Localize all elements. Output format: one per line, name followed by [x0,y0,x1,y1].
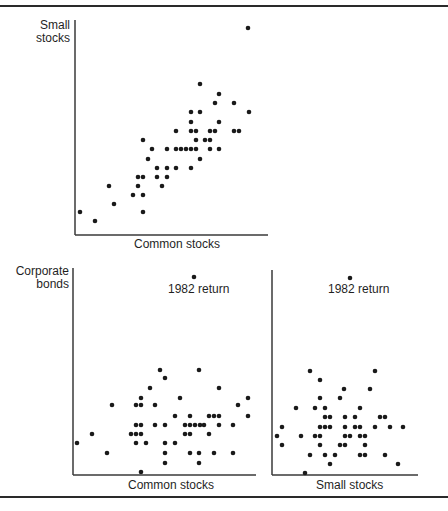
data-point [208,129,213,134]
data-point [189,129,194,134]
data-point [183,432,188,437]
data-point [198,110,203,115]
data-point [163,461,168,466]
data-point [174,166,179,171]
data-point [348,276,353,281]
data-point [153,423,158,428]
data-point [163,451,168,456]
data-point [280,443,285,448]
data-point [134,423,139,428]
data-point [323,453,328,458]
data-point [160,184,165,189]
data-point [353,425,358,430]
data-point [189,120,194,125]
data-point [183,423,188,428]
data-point [323,415,328,420]
data-point [213,101,218,106]
data-point [188,423,193,428]
data-point [198,423,203,428]
data-point [383,453,388,458]
axes-layer [73,20,418,475]
data-point [139,403,144,408]
data-point [318,443,323,448]
data-point [107,184,112,189]
data-point [198,157,203,162]
data-point [342,387,347,392]
data-point [368,387,373,392]
data-point [90,432,95,437]
data-point [231,423,236,428]
data-point [328,415,333,420]
data-point [212,414,217,419]
data-point [373,425,378,430]
data-point [174,129,179,134]
data-point [217,147,222,152]
data-point [163,441,168,446]
data-point [134,403,139,408]
data-point [198,82,203,87]
data-point [373,369,378,374]
data-point [308,453,313,458]
data-point [388,425,393,430]
data-point [78,210,83,215]
data-point [165,175,170,180]
data-point [358,434,363,439]
data-point [155,175,160,180]
data-point [110,403,115,408]
data-point [158,368,163,373]
scatter-figure [0,0,448,511]
data-point [163,423,168,428]
data-point [358,453,363,458]
data-point [396,462,401,467]
data-point [165,147,170,152]
data-point [139,470,144,475]
ylabel-line-2: stocks [10,32,70,45]
data-point [189,147,194,152]
data-point [112,202,117,207]
data-point [139,432,144,437]
data-point [189,110,194,115]
data-point [150,147,155,152]
data-point [323,406,328,411]
data-point [197,451,202,456]
data-point [174,147,179,152]
data-point [348,434,353,439]
data-point [236,403,241,408]
data-point [134,432,139,437]
data-point [131,193,136,198]
data-point [192,275,197,280]
data-point [338,396,343,401]
data-point [280,425,285,430]
data-point [338,443,343,448]
data-point [343,415,348,420]
top-chart-xlabel: Common stocks [134,238,220,251]
data-point [146,157,151,162]
data-point [173,414,178,419]
ylabel-line-2: bonds [0,278,69,291]
bottom-left-annotation: 1982 return [168,283,229,296]
data-point [207,414,212,419]
data-point [383,415,388,420]
data-point [232,129,237,134]
data-point [155,166,160,171]
data-point [136,184,141,189]
data-point [189,166,194,171]
data-point [378,415,383,420]
data-point [203,138,208,143]
data-point [208,147,213,152]
data-point [333,453,338,458]
data-point [202,423,207,428]
data-point [207,432,212,437]
data-point [141,193,146,198]
bottom-right-chart-xlabel: Small stocks [316,479,383,492]
data-point [313,434,318,439]
data-point [193,423,198,428]
data-point [247,110,252,115]
data-point [136,175,141,180]
data-point [217,386,222,391]
data-point [179,147,184,152]
data-point [275,434,280,439]
bottom-left-chart-xlabel: Common stocks [128,479,214,492]
data-point [294,406,299,411]
data-point [144,441,149,446]
